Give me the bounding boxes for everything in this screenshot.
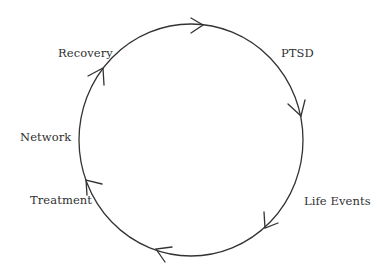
arrow-top-icon [191, 18, 203, 33]
node-label-treatment: Treatment [30, 193, 92, 207]
node-label-ptsd: PTSD [281, 46, 314, 60]
cycle-diagram: PTSD Life Events Treatment Network Recov… [0, 0, 377, 279]
arrowheads [86, 18, 305, 262]
node-label-recovery: Recovery [58, 46, 113, 60]
node-label-network: Network [20, 130, 72, 144]
node-label-life-events: Life Events [304, 194, 371, 208]
